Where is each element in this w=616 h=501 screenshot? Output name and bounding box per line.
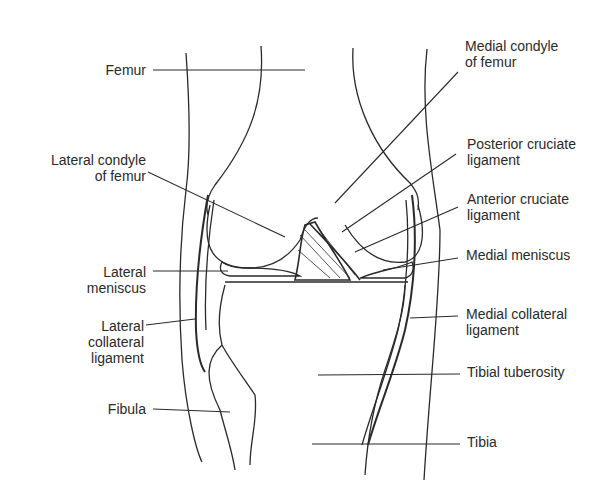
label-medial-collateral: Medial collateral ligament — [466, 306, 567, 338]
leader-lateral-condyle — [148, 172, 285, 237]
tibia-left-edge — [219, 285, 255, 465]
label-medial-meniscus: Medial meniscus — [466, 247, 570, 263]
leader-fibula — [153, 409, 230, 412]
leader-medial-collateral — [410, 316, 458, 318]
label-femur: Femur — [60, 62, 146, 78]
label-posterior-cruciate: Posterior cruciate ligament — [467, 136, 576, 168]
label-lateral-meniscus: Lateral meniscus — [60, 264, 146, 296]
leader-tibial-tuberosity — [318, 374, 460, 375]
label-lateral-condyle: Lateral condyle of femur — [20, 152, 146, 184]
lateral-meniscus-shape — [220, 262, 300, 276]
label-medial-condyle: Medial condyle of femur — [465, 38, 558, 70]
medial-meniscus-shape — [360, 262, 413, 278]
leader-medial-meniscus — [383, 258, 458, 270]
label-tibial-tuberosity: Tibial tuberosity — [467, 364, 565, 380]
femur-outline-left — [207, 46, 262, 215]
label-tibia: Tibia — [467, 434, 497, 450]
leader-medial-condyle — [335, 72, 458, 203]
label-anterior-cruciate: Anterior cruciate ligament — [467, 191, 569, 223]
fibula-head — [209, 345, 235, 470]
femur-outline-right — [353, 48, 419, 210]
label-fibula: Fibula — [60, 401, 146, 417]
label-lateral-collateral: Lateral collateral ligament — [60, 318, 144, 366]
tibia-right-edge — [365, 285, 405, 475]
medial-condyle-shape — [345, 205, 422, 262]
leg-outline-right — [424, 49, 440, 480]
leader-lateral-collateral — [146, 319, 195, 325]
